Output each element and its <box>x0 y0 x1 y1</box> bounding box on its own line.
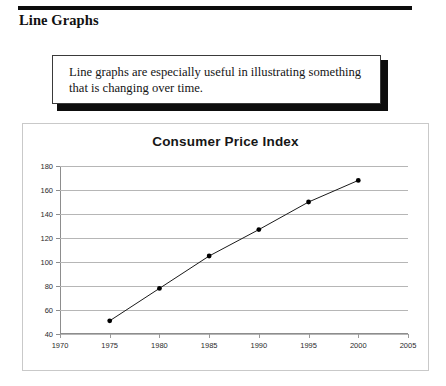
header-rule <box>18 6 412 10</box>
x-axis-tick-label: 1975 <box>101 341 118 350</box>
data-point-marker <box>356 178 361 183</box>
x-axis-tick-label: 2005 <box>400 341 417 350</box>
x-axis-tick <box>60 334 61 338</box>
y-axis-tick-label: 180 <box>40 162 53 171</box>
chart-panel: Consumer Price Index 4060801001201401601… <box>22 123 429 371</box>
x-axis-tick <box>159 334 160 338</box>
x-axis-tick <box>358 334 359 338</box>
y-axis-tick-label: 60 <box>45 306 53 315</box>
x-axis-tick-label: 1990 <box>251 341 268 350</box>
page-title: Line Graphs <box>19 12 99 29</box>
x-axis-tick-label: 1995 <box>300 341 317 350</box>
y-axis-tick-label: 80 <box>45 282 53 291</box>
x-axis-tick <box>209 334 210 338</box>
series-line <box>110 180 359 320</box>
x-axis-tick-label: 1970 <box>52 341 69 350</box>
y-axis-tick-label: 140 <box>40 210 53 219</box>
data-point-marker <box>256 227 261 232</box>
x-axis-tick-label: 1985 <box>201 341 218 350</box>
plot-area: 406080100120140160180 197019751980198519… <box>60 166 408 334</box>
data-point-marker <box>107 318 112 323</box>
x-axis-tick-label: 2000 <box>350 341 367 350</box>
y-axis-tick-label: 100 <box>40 258 53 267</box>
x-axis-tick <box>309 334 310 338</box>
line-series <box>60 166 408 334</box>
gridline <box>60 334 408 335</box>
x-axis-tick-label: 1980 <box>151 341 168 350</box>
callout-text: Line graphs are especially useful in ill… <box>69 64 369 96</box>
data-point-marker <box>207 254 212 259</box>
chart-title: Consumer Price Index <box>23 134 428 149</box>
y-axis-tick-label: 160 <box>40 186 53 195</box>
x-axis-tick <box>110 334 111 338</box>
data-point-marker <box>157 286 162 291</box>
callout-box-container: Line graphs are especially useful in ill… <box>52 55 383 106</box>
y-axis-tick-label: 40 <box>45 330 53 339</box>
y-axis-tick-label: 120 <box>40 234 53 243</box>
x-axis-tick <box>259 334 260 338</box>
x-axis-tick <box>408 334 409 338</box>
callout-box: Line graphs are especially useful in ill… <box>52 55 381 104</box>
data-point-marker <box>306 200 311 205</box>
